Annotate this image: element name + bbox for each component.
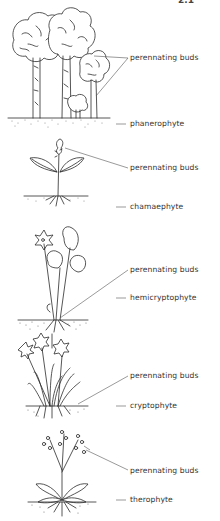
cryptophyte-label: cryptophyte: [130, 401, 177, 410]
phanerophyte-buds-label: perennating buds: [130, 53, 199, 62]
hemicryptophyte-label: hemicryptophyte: [130, 293, 197, 302]
hemicryptophyte-drawing: [18, 227, 128, 332]
hemicryptophyte-buds-label: perennating buds: [130, 265, 199, 274]
chamaephyte-buds-label: perennating buds: [130, 163, 199, 172]
phanerophyte-label: phanerophyte: [130, 119, 184, 128]
phanerophyte-trees-drawing: [8, 8, 128, 128]
therophyte-buds-label: perennating buds: [130, 466, 199, 475]
life-forms-illustration: [0, 0, 220, 521]
chamaephyte-drawing: [24, 139, 128, 207]
chamaephyte-label: chamaephyte: [130, 202, 183, 211]
cryptophyte-drawing: [18, 333, 128, 418]
therophyte-label: therophyte: [130, 495, 173, 504]
cryptophyte-buds-label: perennating buds: [130, 371, 199, 380]
therophyte-drawing: [28, 430, 128, 516]
